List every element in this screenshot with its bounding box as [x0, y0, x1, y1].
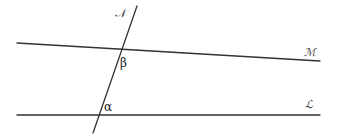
label-m: ℳ [304, 46, 318, 59]
diagram-canvas: 𝒩 ℳ ℒ β α [0, 0, 337, 140]
label-l: ℒ [305, 98, 314, 111]
line-m [17, 43, 320, 61]
line-n-transversal [93, 6, 137, 133]
angle-beta-label: β [120, 56, 127, 70]
angle-alpha-label: α [104, 100, 112, 114]
label-n: 𝒩 [115, 7, 129, 20]
